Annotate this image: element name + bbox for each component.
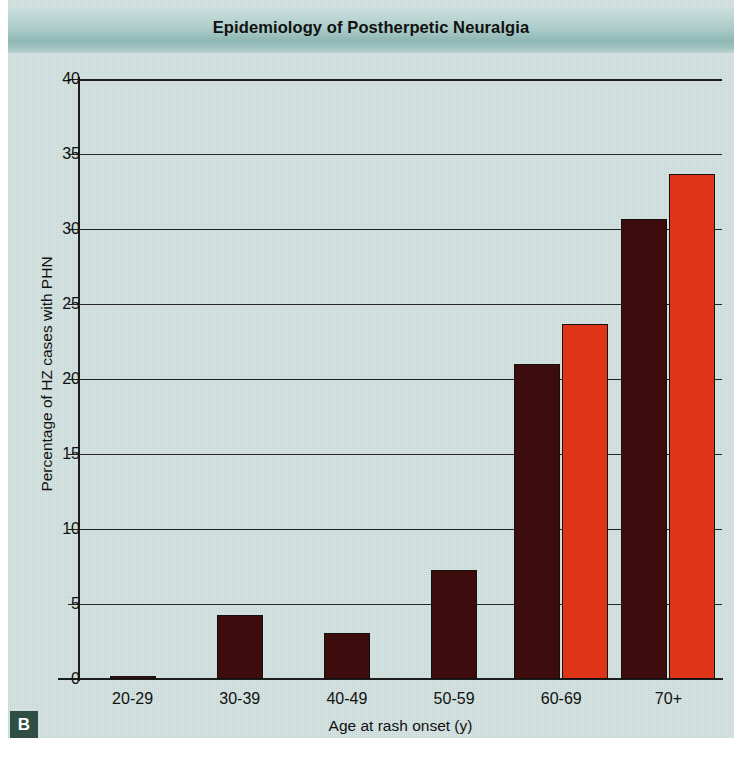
bar-50-59-series-1 <box>431 570 477 680</box>
gridline <box>79 154 722 155</box>
bar-60-69-series-2 <box>562 324 608 680</box>
x-tick-label: 40-49 <box>326 690 367 708</box>
bottom-margin-strip <box>0 738 734 758</box>
panel-label-b: B <box>10 711 38 739</box>
x-axis-title: Age at rash onset (y) <box>79 717 722 735</box>
gridline <box>79 79 722 81</box>
x-tick-label: 30-39 <box>219 690 260 708</box>
x-tick-label: 60-69 <box>541 690 582 708</box>
left-margin-strip <box>0 0 8 758</box>
bar-70plus-series-1 <box>621 219 667 680</box>
bar-20-29-series-1 <box>110 676 156 679</box>
chart-title: Epidemiology of Postherpetic Neuralgia <box>8 8 734 46</box>
bar-40-49-series-1 <box>324 633 370 680</box>
bar-30-39-series-1 <box>217 615 263 680</box>
x-tick-label: 20-29 <box>112 690 153 708</box>
x-tick-label: 50-59 <box>434 690 475 708</box>
y-axis-title: Percentage of HZ cases with PHN <box>38 74 56 674</box>
bar-60-69-series-1 <box>514 364 560 679</box>
bar-70plus-series-2 <box>669 174 715 680</box>
plot-area <box>79 79 722 679</box>
figure-root: Epidemiology of Postherpetic Neuralgia 0… <box>0 0 734 758</box>
x-tick-label: 70+ <box>655 690 682 708</box>
